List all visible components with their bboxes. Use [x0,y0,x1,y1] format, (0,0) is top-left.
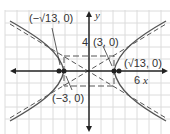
axes [12,14,166,130]
hyperbola-diagram: (−√13, 0) (3, 0) (√13, 0) (−3, 0) 4 6 x … [0,0,170,134]
y-tick-label: 4 [82,37,88,48]
left-vertex-label: (−3, 0) [52,93,84,104]
x-tick-label: 6 [134,75,140,86]
y-axis-label: y [95,10,100,21]
right-focus-label: (√13, 0) [124,58,162,69]
left-focus-label: (−√13, 0) [29,13,73,24]
x-axis-label: x [143,75,148,86]
grid [5,10,170,134]
right-vertex-label: (3, 0) [93,37,119,48]
